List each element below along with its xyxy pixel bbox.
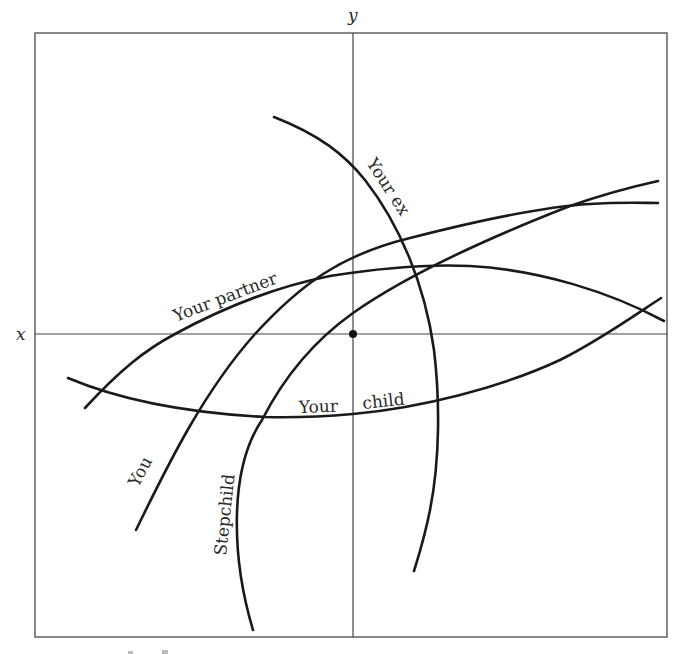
relationship-diagram: y x Your partner Your ex Your child You … bbox=[0, 0, 685, 654]
y-axis-label: y bbox=[347, 5, 358, 25]
label-your-partner: Your partner bbox=[169, 267, 280, 326]
x-axis-label: x bbox=[16, 324, 26, 344]
label-stepchild: Stepchild bbox=[210, 473, 238, 556]
origin-dot bbox=[349, 330, 357, 338]
curve-your-partner bbox=[85, 265, 664, 408]
curve-your-ex bbox=[274, 117, 438, 571]
curve-you bbox=[136, 203, 658, 530]
clipped-text-fragment bbox=[162, 650, 168, 654]
label-your-child-part1: Your bbox=[297, 396, 339, 417]
label-you: You bbox=[123, 453, 156, 491]
